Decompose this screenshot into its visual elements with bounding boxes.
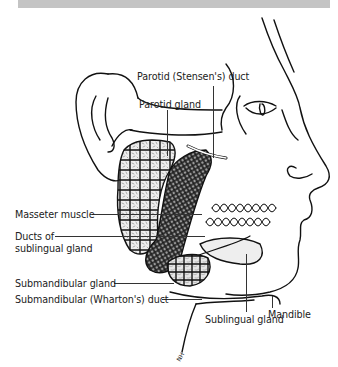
label-parotid-gland: Parotid gland xyxy=(139,99,201,110)
leader-ducts-sublingual xyxy=(55,236,205,237)
label-parotid-duct: Parotid (Stensen's) duct xyxy=(137,71,249,82)
artist-signature: NH xyxy=(175,351,186,362)
submandibular-gland-shape xyxy=(168,255,210,286)
label-submandibular-gland: Submandibular gland xyxy=(15,278,116,289)
teeth xyxy=(206,204,276,226)
leader-sublingual xyxy=(246,254,247,312)
label-sublingual-gland: Sublingual gland xyxy=(205,314,284,325)
label-sublingual-gland-ducts: sublingual gland xyxy=(15,243,93,254)
leader-submandibular-gland xyxy=(114,283,174,284)
leader-masseter xyxy=(92,214,202,215)
zygomatic-line xyxy=(130,130,222,135)
leader-parotid-gland xyxy=(167,110,168,156)
label-submandibular-duct: Submandibular (Wharton's) duct xyxy=(15,294,169,305)
label-masseter-muscle: Masseter muscle xyxy=(15,209,94,220)
leader-mandible xyxy=(272,296,273,308)
leader-parotid-duct xyxy=(213,86,214,158)
label-ducts-of: Ducts of xyxy=(15,231,54,242)
